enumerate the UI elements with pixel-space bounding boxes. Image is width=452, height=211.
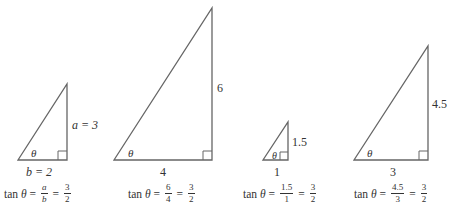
t3-adjacent-label: 1 — [274, 166, 280, 178]
equals-sign: = — [177, 188, 184, 200]
t1-formula: tan θ = ab = 32 — [4, 183, 73, 204]
triangle-2 — [114, 8, 212, 160]
equals-sign: = — [53, 188, 60, 200]
fraction-3-over-2: 32 — [64, 183, 71, 204]
triangles-figure — [0, 0, 452, 211]
triangle-4 — [354, 46, 428, 160]
t1-angle-label: θ — [31, 147, 36, 159]
theta-text: θ — [145, 188, 151, 200]
tan-text: tan — [4, 188, 18, 200]
theta-text: θ — [260, 188, 266, 200]
equals-sign: = — [30, 188, 37, 200]
t1-adjacent-label: b = 2 — [26, 166, 52, 178]
equals-sign: = — [154, 188, 161, 200]
t4-adjacent-label: 3 — [390, 166, 396, 178]
fraction-3-over-2: 32 — [421, 183, 428, 204]
fraction-1.5-over-1: 1.51 — [280, 183, 293, 204]
theta-text: θ — [21, 188, 27, 200]
tan-text: tan — [128, 188, 142, 200]
triangle-1 — [18, 84, 67, 160]
t4-formula: tan θ = 4.53 = 32 — [354, 183, 429, 204]
t2-formula: tan θ = 64 = 32 — [128, 183, 197, 204]
theta-text: θ — [371, 188, 377, 200]
t3-opposite-label: 1.5 — [292, 136, 307, 148]
t4-angle-label: θ — [367, 147, 372, 159]
t3-formula: tan θ = 1.51 = 32 — [243, 183, 318, 204]
fraction-6-over-4: 64 — [165, 183, 172, 204]
fraction-4.5-over-3: 4.53 — [391, 183, 404, 204]
equals-sign: = — [298, 188, 305, 200]
tan-text: tan — [354, 188, 368, 200]
equals-sign: = — [380, 188, 387, 200]
t1-opposite-label: a = 3 — [72, 119, 98, 131]
equals-sign: = — [269, 188, 276, 200]
t2-adjacent-label: 4 — [160, 166, 166, 178]
fraction-3-over-2: 32 — [310, 183, 317, 204]
t3-angle-label: θ — [272, 150, 277, 162]
t4-opposite-label: 4.5 — [432, 98, 447, 110]
t2-angle-label: θ — [128, 147, 133, 159]
tan-text: tan — [243, 188, 257, 200]
fraction-3-over-2: 32 — [188, 183, 195, 204]
fraction-a-over-b: ab — [41, 183, 48, 204]
t2-opposite-label: 6 — [217, 82, 223, 94]
equals-sign: = — [409, 188, 416, 200]
